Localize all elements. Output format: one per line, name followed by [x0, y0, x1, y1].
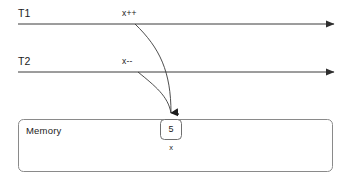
t1-operation-label: x++ — [122, 9, 137, 18]
memory-label: Memory — [26, 126, 62, 136]
t2-to-memory-arrow — [138, 72, 171, 113]
concurrency-diagram: T1 x++ T2 x-- Memory 5 x — [0, 0, 348, 181]
memory-cell-name: x — [160, 144, 182, 152]
memory-cell-value: 5 — [160, 125, 182, 134]
diagram-canvas — [0, 0, 348, 181]
t2-operation-label: x-- — [122, 57, 133, 66]
t2-label: T2 — [18, 56, 31, 67]
t1-label: T1 — [18, 8, 31, 19]
